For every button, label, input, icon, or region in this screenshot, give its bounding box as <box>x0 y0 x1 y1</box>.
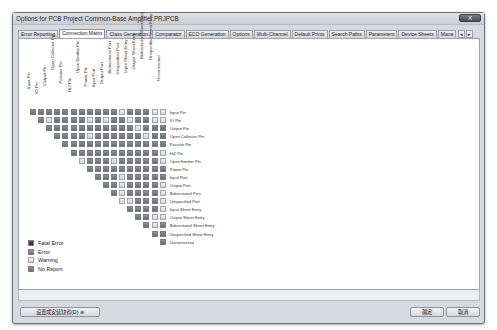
tab-connection-matrix[interactable]: Connection Matrix <box>59 29 105 38</box>
matrix-cell[interactable] <box>46 109 52 115</box>
matrix-cell[interactable] <box>152 117 158 123</box>
matrix-cell[interactable] <box>135 198 141 204</box>
matrix-cell[interactable] <box>87 166 93 172</box>
matrix-cell[interactable] <box>38 109 44 115</box>
matrix-cell[interactable] <box>111 174 117 180</box>
matrix-cell[interactable] <box>103 174 109 180</box>
matrix-cell[interactable] <box>71 150 77 156</box>
matrix-cell[interactable] <box>119 174 125 180</box>
title-bar[interactable]: Options for PCB Project Common-Base Ampl… <box>13 13 484 25</box>
tab-parameters[interactable]: Parameters <box>366 30 398 38</box>
matrix-cell[interactable] <box>127 198 133 204</box>
matrix-cell[interactable] <box>135 133 141 139</box>
matrix-cell[interactable] <box>95 125 101 131</box>
matrix-cell[interactable] <box>135 141 141 147</box>
matrix-cell[interactable] <box>160 133 166 139</box>
matrix-cell[interactable] <box>111 166 117 172</box>
matrix-cell[interactable] <box>160 206 166 212</box>
matrix-cell[interactable] <box>119 133 125 139</box>
matrix-cell[interactable] <box>87 109 93 115</box>
matrix-cell[interactable] <box>160 198 166 204</box>
matrix-cell[interactable] <box>127 182 133 188</box>
matrix-cell[interactable] <box>160 182 166 188</box>
matrix-cell[interactable] <box>79 133 85 139</box>
matrix-cell[interactable] <box>143 190 149 196</box>
tab-default-prints[interactable]: Default Prints <box>292 30 328 38</box>
matrix-cell[interactable] <box>95 158 101 164</box>
tab-options[interactable]: Options <box>230 30 253 38</box>
matrix-cell[interactable] <box>160 117 166 123</box>
matrix-cell[interactable] <box>143 125 149 131</box>
matrix-cell[interactable] <box>127 117 133 123</box>
matrix-cell[interactable] <box>71 141 77 147</box>
matrix-cell[interactable] <box>71 117 77 123</box>
matrix-cell[interactable] <box>46 125 52 131</box>
matrix-cell[interactable] <box>152 182 158 188</box>
matrix-cell[interactable] <box>152 125 158 131</box>
matrix-cell[interactable] <box>160 166 166 172</box>
matrix-cell[interactable] <box>119 109 125 115</box>
matrix-cell[interactable] <box>160 141 166 147</box>
matrix-cell[interactable] <box>111 109 117 115</box>
matrix-cell[interactable] <box>143 117 149 123</box>
matrix-cell[interactable] <box>95 141 101 147</box>
tab-scroll-left-icon[interactable]: ◂ <box>458 30 465 38</box>
tab-class-generation[interactable]: Class Generation <box>106 30 151 38</box>
matrix-cell[interactable] <box>79 141 85 147</box>
matrix-cell[interactable] <box>87 133 93 139</box>
tab-search-paths[interactable]: Search Paths <box>329 30 365 38</box>
matrix-cell[interactable] <box>143 158 149 164</box>
matrix-cell[interactable] <box>152 174 158 180</box>
matrix-cell[interactable] <box>119 141 125 147</box>
matrix-cell[interactable] <box>127 190 133 196</box>
matrix-cell[interactable] <box>160 214 166 220</box>
close-button[interactable]: X <box>459 14 481 22</box>
matrix-cell[interactable] <box>95 109 101 115</box>
matrix-cell[interactable] <box>103 109 109 115</box>
matrix-cell[interactable] <box>111 158 117 164</box>
matrix-cell[interactable] <box>127 206 133 212</box>
matrix-cell[interactable] <box>135 206 141 212</box>
matrix-cell[interactable] <box>143 182 149 188</box>
matrix-cell[interactable] <box>87 150 93 156</box>
matrix-cell[interactable] <box>87 125 93 131</box>
tab-multi-channel[interactable]: Multi-Channel <box>254 30 291 38</box>
matrix-cell[interactable] <box>71 109 77 115</box>
matrix-cell[interactable] <box>152 214 158 220</box>
matrix-cell[interactable] <box>160 231 166 237</box>
matrix-cell[interactable] <box>119 150 125 156</box>
matrix-cell[interactable] <box>152 150 158 156</box>
tab-comparator[interactable]: Comparator <box>152 30 184 38</box>
matrix-cell[interactable] <box>135 158 141 164</box>
matrix-cell[interactable] <box>135 174 141 180</box>
matrix-cell[interactable] <box>87 141 93 147</box>
matrix-cell[interactable] <box>62 117 68 123</box>
matrix-cell[interactable] <box>95 166 101 172</box>
matrix-cell[interactable] <box>103 158 109 164</box>
matrix-cell[interactable] <box>135 109 141 115</box>
matrix-cell[interactable] <box>160 150 166 156</box>
matrix-cell[interactable] <box>79 158 85 164</box>
matrix-cell[interactable] <box>54 117 60 123</box>
matrix-cell[interactable] <box>62 133 68 139</box>
matrix-cell[interactable] <box>111 133 117 139</box>
matrix-cell[interactable] <box>152 166 158 172</box>
matrix-cell[interactable] <box>160 174 166 180</box>
matrix-cell[interactable] <box>143 206 149 212</box>
matrix-cell[interactable] <box>103 166 109 172</box>
matrix-cell[interactable] <box>62 125 68 131</box>
matrix-cell[interactable] <box>38 117 44 123</box>
tab-mana[interactable]: Mana <box>438 30 457 38</box>
matrix-cell[interactable] <box>103 150 109 156</box>
matrix-cell[interactable] <box>95 174 101 180</box>
matrix-cell[interactable] <box>152 231 158 237</box>
matrix-cell[interactable] <box>119 117 125 123</box>
matrix-cell[interactable] <box>143 214 149 220</box>
cancel-button[interactable]: 取消 <box>446 307 480 317</box>
matrix-cell[interactable] <box>71 133 77 139</box>
matrix-cell[interactable] <box>160 158 166 164</box>
matrix-cell[interactable] <box>160 109 166 115</box>
matrix-cell[interactable] <box>135 182 141 188</box>
matrix-cell[interactable] <box>127 158 133 164</box>
matrix-cell[interactable] <box>46 117 52 123</box>
